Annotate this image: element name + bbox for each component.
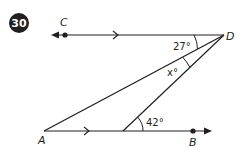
geometry-diagram: 30 C D A B 27° x° 42° [0, 0, 249, 149]
arrowhead-right-icon [204, 128, 212, 135]
point-label-d: D [226, 30, 234, 43]
point-c-dot [62, 32, 67, 37]
segment-ad [44, 35, 224, 131]
point-label-a: A [37, 134, 46, 147]
angle-arc-x [183, 57, 191, 68]
angle-label-27: 27° [173, 41, 191, 52]
point-label-b: B [189, 136, 197, 149]
arrowhead-left-icon [51, 32, 59, 39]
angle-label-42: 42° [146, 117, 164, 128]
line-ab [44, 127, 212, 135]
angle-arc-27 [194, 35, 198, 49]
point-label-c: C [60, 16, 68, 29]
problem-number: 30 [11, 17, 27, 30]
angle-label-x: x° [167, 67, 178, 78]
line-cd [51, 31, 224, 39]
point-b-dot [190, 128, 195, 133]
angle-arc-42 [138, 117, 144, 131]
problem-number-badge: 30 [9, 13, 29, 33]
